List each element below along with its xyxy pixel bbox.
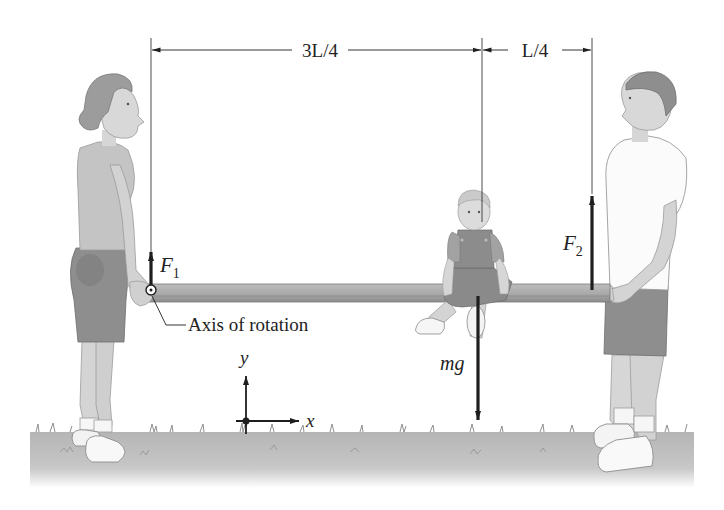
left-span-label: 3L/4 <box>302 40 338 61</box>
plank <box>146 284 610 302</box>
grass-blades <box>36 423 687 432</box>
x-axis-label: x <box>305 410 315 431</box>
woman-figure <box>70 74 150 462</box>
weight-label: mg <box>440 352 464 375</box>
force-f1: F1 <box>151 252 180 288</box>
origin-dot-icon <box>243 418 250 425</box>
force-f2: F2 <box>562 196 592 290</box>
child-figure <box>416 190 513 338</box>
dimension-lines: 3L/4 L/4 <box>151 38 592 272</box>
f1-label: F1 <box>159 253 180 281</box>
diagram-canvas: 3L/4 L/4 F1 Axis of rotation F2 mg y x <box>0 0 724 510</box>
f2-label: F2 <box>562 231 583 259</box>
coordinate-axes: y x <box>236 347 315 434</box>
right-span-label: L/4 <box>522 40 549 61</box>
man-figure <box>590 72 687 472</box>
axis-label: Axis of rotation <box>188 314 309 335</box>
y-axis-label: y <box>238 347 249 368</box>
